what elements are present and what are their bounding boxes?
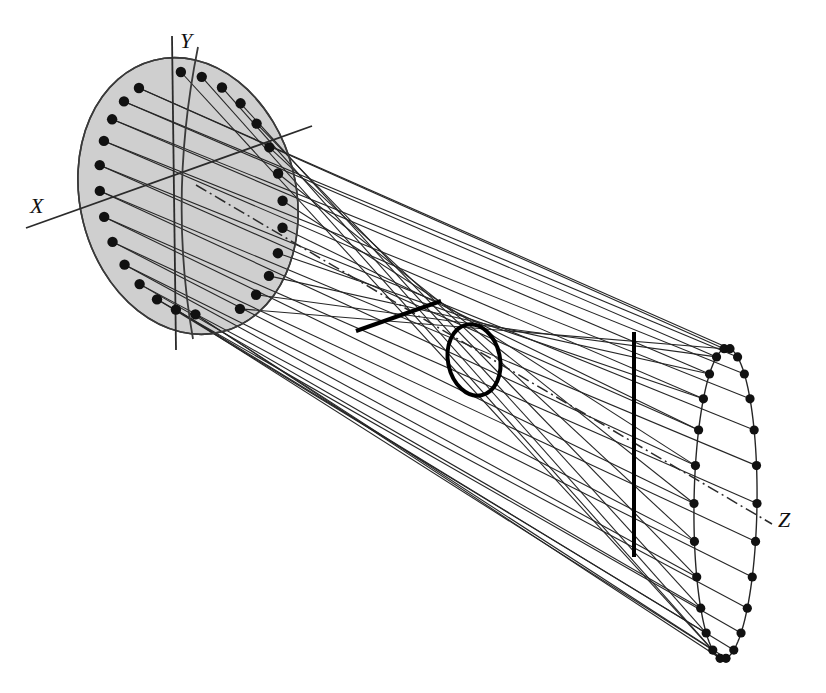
aperture-dot	[197, 72, 207, 82]
aperture-dot	[702, 628, 711, 637]
aperture-dot	[134, 83, 144, 93]
aperture-dot	[752, 461, 761, 470]
aperture-dot	[277, 223, 287, 233]
aperture-dot	[264, 271, 274, 281]
aperture-dot	[273, 168, 283, 178]
aperture-dot	[95, 160, 105, 170]
aperture-dot	[176, 67, 186, 77]
ray-line	[278, 174, 694, 504]
y-axis-label: Y	[180, 28, 195, 53]
aperture-dot	[217, 82, 227, 92]
ray-line	[195, 314, 720, 658]
aperture-dot	[729, 645, 738, 654]
aperture-dot	[690, 537, 699, 546]
aperture-dot	[721, 654, 730, 663]
aperture-dot	[736, 628, 745, 637]
aperture-dot	[99, 212, 109, 222]
aperture-dot	[733, 352, 742, 361]
ray-line	[202, 77, 713, 650]
aperture-dot	[705, 369, 714, 378]
aperture-dot	[273, 248, 283, 258]
aperture-dot	[235, 304, 245, 314]
aperture-dot	[107, 114, 117, 124]
aperture-dot	[235, 98, 245, 108]
aperture-dot	[712, 352, 721, 361]
aperture-dot	[171, 304, 181, 314]
ray-bundle-figure: X Y Z	[0, 0, 826, 693]
diagram-canvas: X Y Z	[0, 0, 826, 693]
aperture-dot	[699, 394, 708, 403]
aperture-dot	[752, 499, 761, 508]
aperture-dot	[748, 572, 757, 581]
aperture-dot	[745, 394, 754, 403]
aperture-dot	[750, 425, 759, 434]
ray-line	[104, 217, 757, 504]
aperture-dot	[119, 96, 129, 106]
aperture-dot	[689, 499, 698, 508]
aperture-dot	[708, 645, 717, 654]
right-aperture-dots	[689, 344, 761, 663]
aperture-dot	[277, 196, 287, 206]
aperture-dot	[99, 136, 109, 146]
aperture-dot	[152, 294, 162, 304]
aperture-dot	[743, 604, 752, 613]
aperture-dot	[251, 290, 261, 300]
aperture-dot	[134, 279, 144, 289]
aperture-dot	[694, 425, 703, 434]
aperture-dot	[740, 369, 749, 378]
near-field-stop-bar	[356, 301, 441, 331]
aperture-dot	[725, 344, 734, 353]
aperture-dot	[119, 259, 129, 269]
aperture-dot	[251, 118, 261, 128]
aperture-dot	[264, 142, 274, 152]
aperture-dot	[751, 537, 760, 546]
ray-line	[104, 217, 694, 504]
aperture-dot	[696, 604, 705, 613]
ray-line	[157, 299, 706, 633]
aperture-dot	[95, 186, 105, 196]
x-axis-label: X	[29, 193, 45, 218]
aperture-dot	[107, 237, 117, 247]
ray-line	[283, 228, 699, 430]
aperture-dot	[190, 309, 200, 319]
aperture-dot	[691, 461, 700, 470]
aperture-dot	[692, 572, 701, 581]
z-axis-label: Z	[778, 507, 791, 532]
